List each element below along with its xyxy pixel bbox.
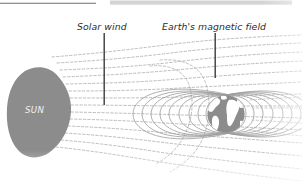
bottom-fade <box>0 150 302 182</box>
label-earth-magnetic-field: Earth's magnetic field <box>162 21 266 32</box>
label-solar-wind: Solar wind <box>77 21 127 32</box>
label-sun: SUN <box>25 105 44 115</box>
diagram-canvas: Solar wind Earth's magnetic field SUN <box>0 0 302 182</box>
